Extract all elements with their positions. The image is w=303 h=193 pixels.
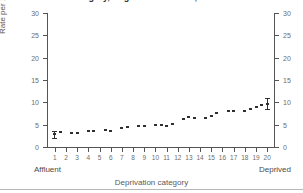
error-bar bbox=[267, 98, 268, 109]
y-tick-label-right: 25 bbox=[283, 32, 299, 39]
x-tick bbox=[167, 148, 168, 152]
y-tick-label-right: 5 bbox=[283, 122, 299, 129]
data-point bbox=[165, 125, 168, 127]
y-tick-left bbox=[43, 13, 47, 14]
data-point bbox=[154, 124, 157, 126]
x-tick bbox=[189, 148, 190, 152]
data-point bbox=[243, 110, 246, 112]
x-tick bbox=[144, 148, 145, 152]
x-tick bbox=[245, 148, 246, 152]
x-tick-label: 20 bbox=[260, 154, 274, 161]
data-point bbox=[260, 104, 263, 106]
x-axis-title: Deprivation category bbox=[0, 178, 303, 187]
bottom-axis-line bbox=[47, 147, 275, 148]
y-tick-label-right: 15 bbox=[283, 77, 299, 84]
data-point bbox=[187, 116, 190, 118]
data-point bbox=[171, 123, 174, 125]
error-bar-cap bbox=[52, 131, 57, 132]
x-tick bbox=[88, 148, 89, 152]
y-tick-label-right: 0 bbox=[283, 144, 299, 151]
y-tick-left bbox=[43, 125, 47, 126]
data-point bbox=[59, 131, 62, 133]
data-point bbox=[120, 127, 123, 129]
y-tick-right bbox=[275, 125, 279, 126]
y-tick-left bbox=[43, 58, 47, 59]
x-tick bbox=[234, 148, 235, 152]
x-tick bbox=[55, 148, 56, 152]
y-tick-label-left: 5 bbox=[23, 122, 39, 129]
plot-area: 0055101015152020252530301234567891011121… bbox=[47, 13, 275, 148]
data-point bbox=[92, 130, 95, 132]
y-tick-right bbox=[275, 102, 279, 103]
x-axis-low-label: Affluent bbox=[34, 165, 61, 174]
data-point bbox=[70, 132, 73, 134]
y-tick-right bbox=[275, 35, 279, 36]
x-tick bbox=[211, 148, 212, 152]
data-point bbox=[204, 117, 207, 119]
x-tick bbox=[256, 148, 257, 152]
y-tick-label-left: 10 bbox=[23, 99, 39, 106]
data-point bbox=[193, 117, 196, 119]
y-tick-label-right: 20 bbox=[283, 55, 299, 62]
x-tick bbox=[100, 148, 101, 152]
x-tick bbox=[77, 148, 78, 152]
error-bar-cap bbox=[265, 98, 270, 99]
data-point bbox=[126, 126, 129, 128]
y-tick-right bbox=[275, 80, 279, 81]
data-point bbox=[215, 112, 218, 114]
data-point bbox=[137, 125, 140, 127]
y-tick-right bbox=[275, 147, 279, 148]
y-tick-left bbox=[43, 147, 47, 148]
y-tick-left bbox=[43, 102, 47, 103]
x-axis-high-label: Deprived bbox=[259, 165, 291, 174]
y-tick-label-right: 30 bbox=[283, 10, 299, 17]
y-tick-label-left: 15 bbox=[23, 77, 39, 84]
x-tick bbox=[122, 148, 123, 152]
error-bar bbox=[54, 131, 55, 138]
y-tick-label-left: 20 bbox=[23, 55, 39, 62]
data-point bbox=[255, 106, 258, 108]
x-tick bbox=[66, 148, 67, 152]
data-point bbox=[249, 108, 252, 110]
data-point bbox=[232, 110, 235, 112]
data-point bbox=[210, 115, 213, 117]
x-tick bbox=[200, 148, 201, 152]
x-tick bbox=[111, 148, 112, 152]
data-point bbox=[76, 132, 79, 134]
left-axis-line bbox=[47, 13, 48, 148]
data-point bbox=[182, 118, 185, 120]
y-tick-left bbox=[43, 80, 47, 81]
chart-title: category, England and Wales, 1990-93 bbox=[0, 0, 303, 2]
x-tick bbox=[155, 148, 156, 152]
y-tick-left bbox=[43, 35, 47, 36]
data-point bbox=[227, 110, 230, 112]
data-point bbox=[87, 130, 90, 132]
error-bar-cap bbox=[52, 138, 57, 139]
data-point bbox=[104, 129, 107, 131]
y-axis-title: Rate per 100,000 bbox=[0, 0, 7, 34]
data-point bbox=[160, 124, 163, 126]
y-tick-label-left: 0 bbox=[23, 144, 39, 151]
y-tick-label-left: 30 bbox=[23, 10, 39, 17]
chart-figure: category, England and Wales, 1990-93 Rat… bbox=[0, 0, 303, 193]
error-bar-cap bbox=[265, 109, 270, 110]
x-tick bbox=[178, 148, 179, 152]
data-point bbox=[109, 130, 112, 132]
x-tick bbox=[222, 148, 223, 152]
y-tick-right bbox=[275, 58, 279, 59]
x-tick bbox=[133, 148, 134, 152]
footer-divider bbox=[0, 189, 303, 190]
y-tick-label-right: 10 bbox=[283, 99, 299, 106]
data-point bbox=[143, 125, 146, 127]
x-tick bbox=[267, 148, 268, 152]
y-tick-label-left: 25 bbox=[23, 32, 39, 39]
y-tick-right bbox=[275, 13, 279, 14]
